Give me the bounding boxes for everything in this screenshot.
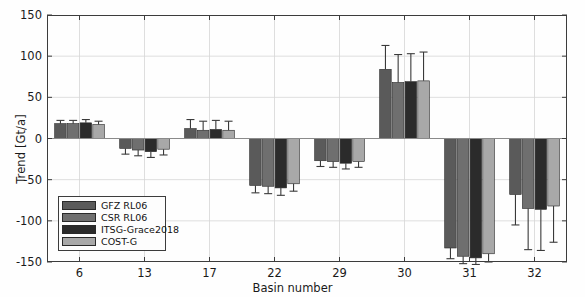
bar-group xyxy=(132,139,144,156)
bar xyxy=(405,82,417,139)
y-tick-label: 150 xyxy=(20,8,42,22)
legend-swatch xyxy=(62,213,96,222)
bar-group xyxy=(185,120,197,139)
x-tick-label: 31 xyxy=(462,266,477,280)
x-tick-label: 29 xyxy=(332,266,347,280)
bar xyxy=(250,139,262,186)
bar xyxy=(145,139,157,152)
legend-label: ITSG-Grace2018 xyxy=(101,225,179,235)
bar xyxy=(132,139,144,151)
bar-group xyxy=(470,139,482,265)
bar-group xyxy=(405,54,417,139)
bar-group xyxy=(288,139,300,192)
bar-group xyxy=(392,55,404,139)
bar xyxy=(80,123,92,139)
x-tick-label: 13 xyxy=(137,266,152,280)
bar xyxy=(470,139,482,258)
legend-item[interactable]: COST-G xyxy=(62,236,161,247)
bar-group xyxy=(380,45,392,138)
x-axis-tick-labels: 613172229303132 xyxy=(0,266,585,282)
chart-legend: GFZ RL06CSR RL06ITSG-Grace2018COST-G xyxy=(58,196,166,251)
bar xyxy=(340,139,352,164)
bar xyxy=(548,139,560,207)
bar xyxy=(522,139,534,209)
x-tick-label: 6 xyxy=(76,266,83,280)
legend-item[interactable]: ITSG-Grace2018 xyxy=(62,224,161,235)
legend-label: COST-G xyxy=(101,237,137,247)
y-tick-label: -100 xyxy=(16,214,42,228)
legend-item[interactable]: GFZ RL06 xyxy=(62,200,161,211)
bar-group xyxy=(120,139,132,155)
bar xyxy=(457,139,469,257)
legend-swatch xyxy=(62,237,96,246)
x-tick-label: 17 xyxy=(202,266,217,280)
bar xyxy=(275,139,287,188)
bar xyxy=(158,139,170,150)
legend-item[interactable]: CSR RL06 xyxy=(62,212,161,223)
bar-group xyxy=(353,139,365,168)
bar-group xyxy=(327,139,339,168)
bar xyxy=(197,130,209,138)
y-tick-label: 0 xyxy=(35,132,42,146)
bar-group xyxy=(483,139,495,263)
bar xyxy=(392,83,404,139)
bar-group xyxy=(418,52,430,138)
bar xyxy=(67,124,79,139)
bar-group xyxy=(158,139,170,155)
bar xyxy=(185,129,197,139)
bar xyxy=(262,139,274,187)
y-tick-label: 100 xyxy=(20,49,42,63)
bar xyxy=(510,139,522,195)
bar-group xyxy=(197,121,209,138)
bar xyxy=(210,129,222,138)
bar xyxy=(55,124,66,139)
x-tick-label: 22 xyxy=(267,266,282,280)
bar xyxy=(380,69,392,138)
bar-group xyxy=(55,120,66,138)
x-tick-label: 32 xyxy=(527,266,542,280)
bar xyxy=(315,139,327,161)
bar-group xyxy=(535,139,547,251)
bar xyxy=(418,81,430,139)
bar-group xyxy=(93,121,105,138)
bar-group xyxy=(457,139,469,264)
bar xyxy=(445,139,457,249)
bar-group xyxy=(145,139,157,158)
bar-group xyxy=(548,139,560,243)
bar xyxy=(535,139,547,210)
y-tick-label: 50 xyxy=(27,90,42,104)
legend-label: CSR RL06 xyxy=(101,213,147,223)
x-tick-label: 30 xyxy=(397,266,412,280)
bar-group xyxy=(275,139,287,196)
chart-figure: Trend [Gt/a] 150100500-50-100-150 613172… xyxy=(0,0,585,297)
bar-group xyxy=(67,120,79,138)
bar-group xyxy=(262,139,274,194)
bar xyxy=(483,139,495,254)
bar-group xyxy=(522,139,534,250)
bar xyxy=(93,125,105,139)
bar xyxy=(353,139,365,162)
bar xyxy=(327,139,339,162)
legend-swatch xyxy=(62,201,96,210)
bar-group xyxy=(315,139,327,167)
bar xyxy=(120,139,132,149)
bar-group xyxy=(223,121,235,138)
bar-group xyxy=(210,120,222,138)
bar xyxy=(288,139,300,184)
y-axis-tick-labels: 150100500-50-100-150 xyxy=(0,0,42,297)
bar-group xyxy=(510,139,522,225)
bar-group xyxy=(80,120,92,139)
bar-group xyxy=(250,139,262,193)
bar-group xyxy=(445,139,457,259)
legend-label: GFZ RL06 xyxy=(101,201,147,211)
bar xyxy=(223,130,235,138)
legend-swatch xyxy=(62,225,96,234)
y-tick-label: -50 xyxy=(23,173,42,187)
bar-group xyxy=(340,139,352,169)
x-axis-title: Basin number xyxy=(0,281,585,295)
